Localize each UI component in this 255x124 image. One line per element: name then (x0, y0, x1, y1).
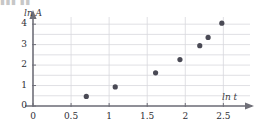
x-tick-label: 1.5 (135, 111, 159, 121)
y-tick-label: 0 (13, 100, 27, 110)
data-point (153, 70, 158, 75)
y-axis-label: ln A (24, 8, 42, 18)
data-point (206, 35, 211, 40)
y-tick-label: 3 (13, 39, 27, 49)
x-tick-label: 0 (21, 111, 45, 121)
data-point (197, 43, 202, 48)
x-tick-label: 1 (97, 111, 121, 121)
y-tick-label: 4 (13, 18, 27, 28)
scatter-plot (0, 0, 255, 124)
y-tick-label: 1 (13, 80, 27, 90)
x-axis-label: ln t (222, 92, 237, 102)
data-point (177, 57, 182, 62)
data-point (84, 94, 89, 99)
x-tick-label: 2 (173, 111, 197, 121)
x-tick-label: 2.5 (211, 111, 235, 121)
x-tick-label: 0.5 (59, 111, 83, 121)
data-point (113, 84, 118, 89)
data-point (219, 21, 224, 26)
y-tick-label: 2 (13, 59, 27, 69)
chart-container: ▮▮▮ ▮▮ ln A ln t 01234 00.511.522.5 (0, 0, 255, 124)
x-axis-arrowhead (245, 102, 254, 109)
